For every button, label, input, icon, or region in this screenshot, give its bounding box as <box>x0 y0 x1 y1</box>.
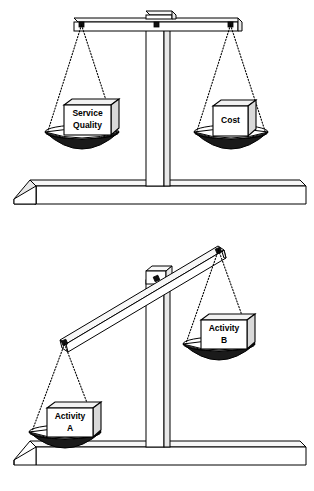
balance-beam <box>74 11 242 31</box>
block-activity-b: Activity B <box>201 314 255 349</box>
center-post <box>146 280 170 447</box>
pivot-knob-center <box>154 22 159 27</box>
block-label-line2: Quality <box>73 120 102 130</box>
block-service-quality: Service Quality <box>64 99 119 135</box>
block-label-line1: Service <box>72 108 103 118</box>
block-label-line1: Activity <box>209 323 240 333</box>
block-label-line1: Activity <box>55 411 86 421</box>
diagram-canvas: Service Quality Cost <box>0 0 314 491</box>
block-label-line2: B <box>221 335 227 345</box>
center-post <box>146 26 170 186</box>
block-label-line1: Cost <box>221 115 240 125</box>
block-activity-a: Activity A <box>47 402 101 437</box>
block-cost: Cost <box>213 100 256 136</box>
tilted-scale-figure: Activity A Activity B <box>0 236 314 491</box>
balanced-scale-figure: Service Quality Cost <box>0 0 314 236</box>
block-label-line2: A <box>67 423 73 433</box>
